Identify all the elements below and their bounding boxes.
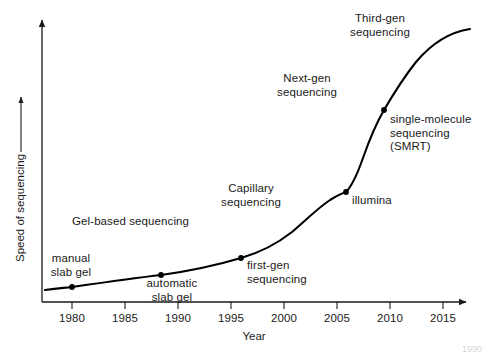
annotation-manual-slab-gel: manual slab gel: [36, 252, 106, 279]
annotation-first-gen-sequencing: first-gen sequencing: [247, 259, 307, 286]
annotation-third-gen-sequencing: Third-gen sequencing: [340, 12, 420, 39]
data-point-smrt: [381, 107, 387, 113]
sequencing-speed-chart: Speed of sequencing Year 1980 1985 1990 …: [0, 0, 488, 352]
x-tick-label-2000: 2000: [261, 312, 307, 324]
annotation-automatic-slab-gel: automatic slab gel: [134, 277, 210, 304]
data-point-manual-slab-gel: [69, 284, 75, 290]
cut-off-caption: 1990: [0, 344, 488, 352]
x-tick-label-2015: 2015: [420, 312, 466, 324]
data-point-illumina: [343, 189, 349, 195]
x-axis-ticks: [72, 302, 443, 309]
x-tick-label-1995: 1995: [208, 312, 254, 324]
x-tick-label-1985: 1985: [102, 312, 148, 324]
chart-plot-area: [0, 0, 488, 352]
y-axis-title: Speed of sequencing: [14, 154, 26, 262]
y-axis-title-text: Speed of sequencing: [14, 154, 26, 262]
annotation-next-gen-sequencing: Next-gen sequencing: [266, 72, 348, 99]
annotation-capillary-sequencing: Capillary sequencing: [212, 182, 290, 209]
x-tick-label-1990: 1990: [155, 312, 201, 324]
annotation-gel-based-sequencing: Gel-based sequencing: [72, 215, 189, 229]
x-axis-title: Year: [194, 330, 314, 342]
x-tick-label-1980: 1980: [49, 312, 95, 324]
sequencing-speed-curve: [45, 29, 470, 290]
annotation-illumina: illumina: [352, 194, 392, 208]
x-tick-label-2010: 2010: [367, 312, 413, 324]
annotation-single-molecule-sequencing: single-molecule sequencing (SMRT): [390, 113, 471, 154]
x-tick-label-2005: 2005: [314, 312, 360, 324]
data-point-first-gen: [238, 255, 244, 261]
